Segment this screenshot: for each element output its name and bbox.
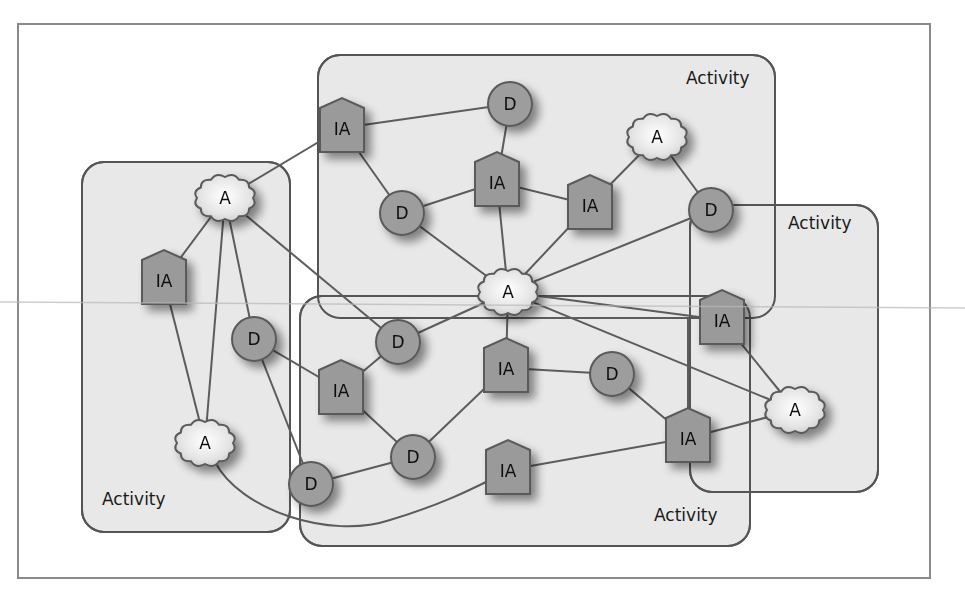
node-label: D <box>395 203 408 223</box>
node-label: IA <box>489 173 506 193</box>
node-label: D <box>247 329 260 349</box>
activity-label: Activity <box>102 489 166 509</box>
node-d-D8: D <box>289 462 333 506</box>
node-label: IA <box>500 461 517 481</box>
activity-label: Activity <box>654 505 718 525</box>
node-label: D <box>704 200 717 220</box>
node-ia-IA7: IA <box>700 290 744 344</box>
node-d-D7: D <box>391 435 435 479</box>
node-label: A <box>219 188 231 208</box>
node-label: D <box>304 474 317 494</box>
node-ia-IA2: IA <box>475 152 519 206</box>
node-d-D3: D <box>689 188 733 232</box>
node-ia-IA8: IA <box>666 408 710 462</box>
node-label: IA <box>156 271 173 291</box>
node-ia-IA6: IA <box>484 338 528 392</box>
node-d-D1: D <box>488 82 532 126</box>
node-label: IA <box>582 196 599 216</box>
node-label: IA <box>333 381 350 401</box>
node-ia-IA1: IA <box>320 98 364 152</box>
activity-label: Activity <box>788 213 852 233</box>
node-d-D5: D <box>376 320 420 364</box>
node-label: A <box>789 400 801 420</box>
node-label: IA <box>334 119 351 139</box>
node-a-A4: A <box>478 269 537 315</box>
node-a-A3: A <box>627 114 686 160</box>
node-label: D <box>503 94 516 114</box>
activity-label: Activity <box>686 68 750 88</box>
node-label: IA <box>714 311 731 331</box>
activity-box-act-right <box>690 205 878 492</box>
node-label: A <box>502 282 514 302</box>
node-ia-IA5: IA <box>319 360 363 414</box>
node-label: IA <box>498 359 515 379</box>
node-ia-IA3: IA <box>568 175 612 229</box>
activity-network-diagram: AAAAAIAIAIAIAIAIAIAIAIADDDDDDDD Activity… <box>0 0 965 593</box>
node-a-A5: A <box>765 387 824 433</box>
node-a-A1: A <box>195 175 254 221</box>
node-label: D <box>391 332 404 352</box>
node-a-A2: A <box>175 420 234 466</box>
node-label: A <box>651 127 663 147</box>
node-label: D <box>605 364 618 384</box>
node-label: D <box>406 447 419 467</box>
node-label: IA <box>680 429 697 449</box>
node-ia-IA4: IA <box>142 250 186 304</box>
node-d-D2: D <box>380 191 424 235</box>
node-d-D6: D <box>590 352 634 396</box>
node-label: A <box>199 433 211 453</box>
node-d-D4: D <box>232 317 276 361</box>
node-ia-IA9: IA <box>486 440 530 494</box>
